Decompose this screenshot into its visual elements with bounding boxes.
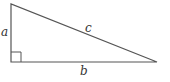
triangle-outline — [11, 4, 157, 62]
right-triangle-diagram: a c b — [0, 0, 170, 82]
label-side-b: b — [80, 64, 88, 78]
label-side-a: a — [1, 25, 8, 39]
right-angle-marker — [11, 52, 21, 62]
label-hypotenuse-c: c — [85, 21, 92, 35]
